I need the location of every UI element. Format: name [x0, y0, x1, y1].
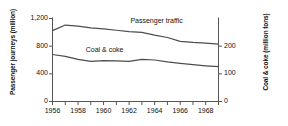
series-line-passenger-traffic — [53, 25, 219, 44]
y-axis-left-tick-label: 0 — [14, 97, 48, 105]
y-axis-right-tick-label: 0 — [224, 97, 250, 105]
y-axis-right-tick-label: 100 — [224, 69, 250, 77]
y-axis-left-tick-label: 400 — [14, 69, 48, 77]
y-axis-left-tick-label: 1,200 — [14, 14, 48, 22]
y-axis-right-tick-label: 200 — [224, 42, 250, 50]
series-label-passenger-traffic: Passenger traffic — [130, 17, 182, 24]
y-axis-left-tick-label: 800 — [14, 42, 48, 50]
chart-container: Passenger journeys (million) Coal & coke… — [0, 0, 288, 126]
x-axis-tick-label: 1968 — [191, 107, 221, 115]
series-label-coal-and-coke: Coal & coke — [86, 46, 124, 53]
series-line-coal-and-coke — [53, 54, 219, 66]
